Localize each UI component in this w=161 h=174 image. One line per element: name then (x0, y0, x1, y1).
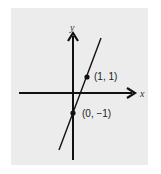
point-1-1 (84, 74, 89, 79)
y-axis-label: y (69, 22, 75, 33)
x-axis-label: x (139, 88, 145, 99)
point-0-neg1 (70, 110, 75, 115)
point-0-neg1-label: (0, −1) (82, 108, 111, 119)
coordinate-plane: x y (1, 1) (0, −1) (0, 0, 161, 174)
point-1-1-label: (1, 1) (94, 71, 117, 82)
